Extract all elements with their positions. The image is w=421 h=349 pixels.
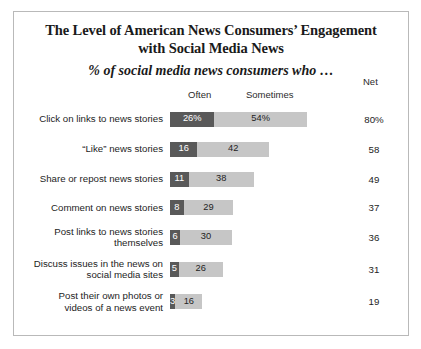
bar-track: 26%54% <box>170 104 345 134</box>
bar-track: 1138 <box>170 164 345 194</box>
bar-segment-often[interactable]: 5 <box>170 262 179 277</box>
table-row: “Like” news stories164258 <box>14 134 408 164</box>
bar-rows: Click on links to news stories26%54%80%“… <box>14 104 408 318</box>
legend-label-sometimes: Sometimes <box>246 89 294 100</box>
title-block: The Level of American News Consumers’ En… <box>14 12 408 81</box>
bar-segment-often[interactable]: 26% <box>170 112 214 127</box>
bar-value-sometimes: 26 <box>196 264 206 273</box>
column-headers: Often Sometimes Net <box>14 85 408 103</box>
bar-category-label: Comment on news stories <box>14 202 170 214</box>
bar-value-often: 16 <box>179 144 189 153</box>
bar-segment-often[interactable]: 8 <box>170 200 184 215</box>
bar-value-sometimes: 30 <box>201 232 211 241</box>
bar-segment-often[interactable]: 11 <box>170 172 189 187</box>
bar-category-label: Post links to news stories themselves <box>14 226 170 249</box>
column-header-net: Net <box>363 76 378 87</box>
bar-value-often: 11 <box>175 174 185 183</box>
net-value: 31 <box>345 264 403 275</box>
table-row: Share or repost news stories113849 <box>14 164 408 194</box>
stacked-bar[interactable]: 1642 <box>170 142 269 157</box>
bar-value-sometimes: 38 <box>216 174 226 183</box>
net-value: 80% <box>345 114 403 125</box>
bar-segment-sometimes[interactable]: 26 <box>179 262 223 277</box>
bar-value-sometimes: 29 <box>203 203 213 212</box>
bar-value-often: 6 <box>173 232 178 241</box>
page-title-line-2: with Social Media News <box>14 39 408 57</box>
bar-category-label: Discuss issues in the news on social med… <box>14 258 170 281</box>
page-subtitle: % of social media news consumers who … <box>14 57 408 81</box>
bar-value-often: 8 <box>174 203 179 212</box>
stacked-bar[interactable]: 829 <box>170 200 233 215</box>
bar-category-label: Share or repost news stories <box>14 173 170 185</box>
bar-segment-sometimes[interactable]: 42 <box>197 142 269 157</box>
chart-container: The Level of American News Consumers’ En… <box>13 11 409 336</box>
bar-segment-sometimes[interactable]: 16 <box>175 294 202 309</box>
bar-track: 1642 <box>170 134 345 164</box>
bar-value-sometimes: 54% <box>251 114 270 123</box>
net-value: 49 <box>345 174 403 185</box>
bar-segment-sometimes[interactable]: 29 <box>184 200 234 215</box>
bar-segment-often[interactable]: 6 <box>170 230 180 245</box>
net-value: 36 <box>345 232 403 243</box>
stacked-bar[interactable]: 316 <box>170 294 202 309</box>
table-row: Post links to news stories themselves630… <box>14 221 408 253</box>
bar-track: 630 <box>170 221 345 253</box>
bar-value-often: 5 <box>172 264 177 273</box>
bar-category-label: Post their own photos or videos of a new… <box>14 290 170 313</box>
table-row: Post their own photos or videos of a new… <box>14 285 408 318</box>
stacked-bar[interactable]: 1138 <box>170 172 254 187</box>
bar-segment-sometimes[interactable]: 30 <box>180 230 231 245</box>
legend-label-often: Often <box>188 89 211 100</box>
stacked-bar[interactable]: 526 <box>170 262 223 277</box>
bar-segment-sometimes[interactable]: 38 <box>189 172 254 187</box>
table-row: Comment on news stories82937 <box>14 194 408 221</box>
bar-value-sometimes: 42 <box>228 144 238 153</box>
stacked-bar[interactable]: 630 <box>170 230 232 245</box>
bar-segment-sometimes[interactable]: 54% <box>214 112 306 127</box>
bar-category-label: Click on links to news stories <box>14 113 170 125</box>
table-row: Click on links to news stories26%54%80% <box>14 104 408 134</box>
net-value: 19 <box>345 296 403 307</box>
bar-track: 526 <box>170 253 345 285</box>
bar-segment-often[interactable]: 16 <box>170 142 197 157</box>
bar-value-sometimes: 16 <box>184 297 194 306</box>
page-title-line-1: The Level of American News Consumers’ En… <box>14 21 408 39</box>
stacked-bar[interactable]: 26%54% <box>170 112 307 127</box>
bar-value-often: 26% <box>183 114 202 123</box>
net-value: 37 <box>345 202 403 213</box>
bar-category-label: “Like” news stories <box>14 143 170 155</box>
table-row: Discuss issues in the news on social med… <box>14 253 408 285</box>
bar-track: 829 <box>170 194 345 221</box>
bar-track: 316 <box>170 285 345 318</box>
net-value: 58 <box>345 144 403 155</box>
